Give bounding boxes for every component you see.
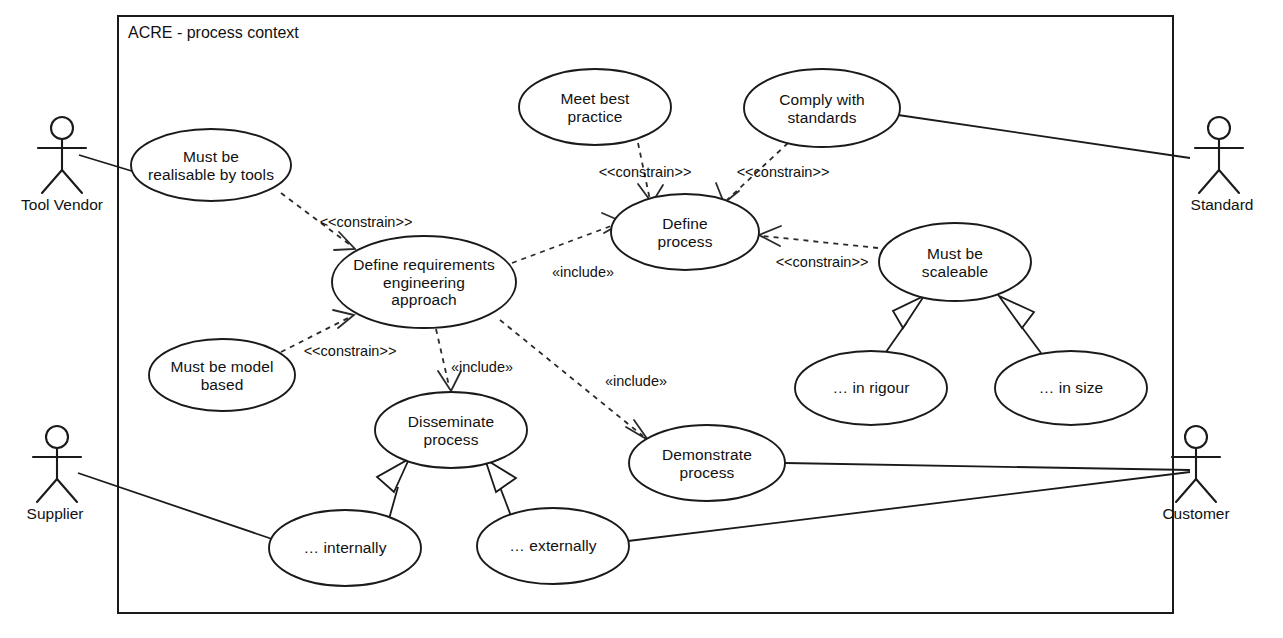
use-case-in-size[interactable] <box>995 351 1147 425</box>
actor-supplier <box>33 426 81 502</box>
assoc-tool-vendor-realisable <box>79 155 135 172</box>
actor-tool-vendor <box>38 117 86 193</box>
generalization-head-externally <box>485 459 516 492</box>
gen-externally-to-disseminate <box>500 487 511 516</box>
dep-realisable-constrains-approach <box>281 193 353 247</box>
actor-customer <box>1172 426 1220 502</box>
use-case-must-be-realisable-by-tools[interactable] <box>131 129 291 201</box>
use-case-internally[interactable] <box>269 510 421 586</box>
dep-standards-constrains-process <box>727 143 788 200</box>
use-case-define-re-approach[interactable] <box>332 236 516 328</box>
generalization-head-internally <box>377 459 409 492</box>
arrowhead-scaleable-constrain <box>759 226 781 246</box>
use-case-disseminate-process[interactable] <box>375 392 527 468</box>
use-case-meet-best-practice[interactable] <box>519 69 671 145</box>
use-case-define-process[interactable] <box>611 194 759 270</box>
uml-use-case-diagram: Define RE approach --> Define RE approac… <box>0 0 1283 638</box>
arrowhead-include-disseminate <box>438 371 461 391</box>
generalization-head-size <box>999 296 1034 328</box>
use-case-demonstrate-process[interactable] <box>629 425 785 501</box>
use-case-comply-with-standards[interactable] <box>744 69 900 147</box>
diagram-canvas: Define RE approach --> Define RE approac… <box>0 0 1283 638</box>
assoc-supplier-internally <box>78 473 275 540</box>
use-case-must-be-scaleable[interactable] <box>879 223 1031 301</box>
generalization-head-rigour <box>893 296 924 328</box>
use-case-externally[interactable] <box>477 508 629 584</box>
assoc-standards-standard <box>898 115 1190 158</box>
assoc-demonstrate-customer <box>785 463 1190 470</box>
arrowhead-realisable-constrain <box>334 232 355 250</box>
use-case-in-rigour[interactable] <box>795 351 947 425</box>
dep-model-based-constrains-approach <box>281 316 352 352</box>
arrowhead-include-demonstrate <box>626 420 648 440</box>
arrowhead-model-based-constrain <box>333 310 354 328</box>
actor-standard <box>1195 117 1243 193</box>
dep-approach-includes-define-process <box>512 223 619 263</box>
use-case-must-be-model-based[interactable] <box>149 339 295 411</box>
